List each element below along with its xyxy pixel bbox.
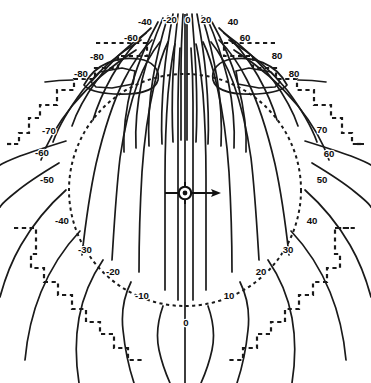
- contour-label: -50: [40, 174, 54, 185]
- contour-label: -40: [138, 16, 152, 27]
- contour-label: 80: [272, 50, 283, 61]
- contour-label: 40: [228, 16, 239, 27]
- contour-label: 10: [224, 290, 235, 301]
- contour-label: -80: [74, 68, 88, 79]
- contour-label: -70: [42, 125, 56, 136]
- contour-label: -80: [90, 51, 104, 62]
- pole-marker-dot: [183, 191, 188, 196]
- contour-figure: -40 -20 0 20 40 -60 60 -80 -80 80 80 -70…: [0, 0, 371, 383]
- contour-label: 80: [289, 68, 300, 79]
- contour-label: -40: [55, 215, 69, 226]
- contour-plot-canvas: -40 -20 0 20 40 -60 60 -80 -80 80 80 -70…: [0, 0, 371, 383]
- contour-label: -20: [106, 266, 120, 277]
- contour-label: 0: [185, 14, 190, 25]
- contour-label: 20: [256, 266, 267, 277]
- contour-label: 60: [240, 32, 251, 43]
- contour-label: 40: [307, 215, 318, 226]
- contour-label: -60: [124, 32, 138, 43]
- contour-label: -30: [78, 244, 92, 255]
- contour-label: 0: [183, 317, 188, 328]
- contour-label: -60: [35, 147, 49, 158]
- contour-label: 60: [324, 148, 335, 159]
- contour-label: 30: [283, 244, 294, 255]
- contour-label: 70: [317, 124, 328, 135]
- contour-label: -10: [135, 290, 149, 301]
- contour-label: 50: [317, 174, 328, 185]
- contour-label: -20: [163, 14, 177, 25]
- contour-label: 20: [201, 14, 212, 25]
